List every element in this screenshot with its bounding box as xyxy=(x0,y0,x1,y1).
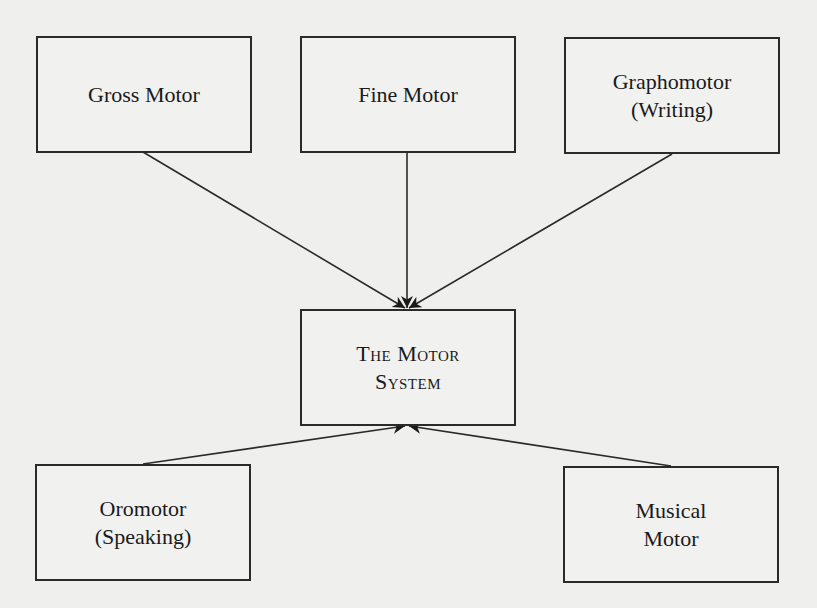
node-label: The Motor xyxy=(356,340,460,368)
node-sublabel: (Writing) xyxy=(631,96,713,124)
node-label: Gross Motor xyxy=(88,81,200,109)
node-graphomotor: Graphomotor (Writing) xyxy=(564,37,780,154)
arrow-oromotor-to-system xyxy=(143,426,405,464)
node-label: Graphomotor xyxy=(613,68,732,96)
arrow-musical-to-system xyxy=(409,426,671,466)
node-gross-motor: Gross Motor xyxy=(36,36,252,153)
arrow-gross-to-system xyxy=(143,152,405,308)
node-motor-system: The Motor System xyxy=(300,309,516,426)
node-musical-motor: Musical Motor xyxy=(563,466,779,583)
node-sublabel: (Speaking) xyxy=(95,523,192,551)
arrow-grapho-to-system xyxy=(409,154,672,308)
node-label: Fine Motor xyxy=(358,81,458,109)
node-oromotor: Oromotor (Speaking) xyxy=(35,464,251,581)
node-label: Oromotor xyxy=(100,495,187,523)
node-fine-motor: Fine Motor xyxy=(300,36,516,153)
node-label: Motor xyxy=(644,525,699,553)
node-label: Musical xyxy=(636,497,707,525)
node-label: System xyxy=(375,368,441,396)
